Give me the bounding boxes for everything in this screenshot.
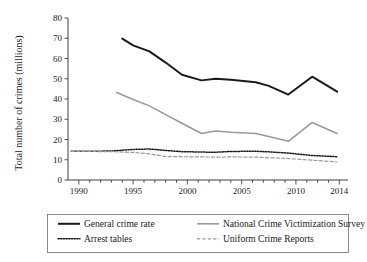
legend-label-3: Arrest tables <box>84 234 133 244</box>
legend-label-1: General crime rate <box>84 219 155 229</box>
y-tick-label: 40 <box>53 94 63 104</box>
series-line-3 <box>71 149 337 157</box>
y-tick-label: 20 <box>53 135 63 145</box>
y-axis-ticks: 01020304050607080 <box>53 13 68 185</box>
line-chart: Total number of crimes (millions) 010203… <box>0 0 367 262</box>
chart-figure: Total number of crimes (millions) 010203… <box>0 0 367 262</box>
x-tick-label: 2010 <box>287 186 306 196</box>
y-tick-label: 50 <box>53 74 63 84</box>
y-axis-label: Total number of crimes (millions) <box>13 35 25 170</box>
x-tick-label: 2005 <box>233 186 252 196</box>
legend-label-4: Uniform Crime Reports <box>223 234 314 244</box>
y-tick-label: 80 <box>53 13 63 23</box>
x-tick-label: 1990 <box>70 186 89 196</box>
y-tick-label: 70 <box>53 33 63 43</box>
data-series-group <box>71 39 337 162</box>
y-tick-label: 10 <box>53 155 63 165</box>
y-tick-label: 60 <box>53 54 63 64</box>
legend-label-2: National Crime Victimization Survey <box>223 219 365 229</box>
x-tick-label: 2000 <box>178 186 197 196</box>
y-tick-label: 0 <box>58 175 63 185</box>
x-tick-label: 2014 <box>330 186 349 196</box>
y-tick-label: 30 <box>53 114 63 124</box>
y-axis-label-text: Total number of crimes (millions) <box>13 35 25 170</box>
series-line-2 <box>117 93 337 142</box>
series-line-4 <box>71 151 337 162</box>
x-axis-ticks: 199019952000200520102014 <box>70 180 349 196</box>
series-line-1 <box>122 39 337 95</box>
legend: General crime rateNational Crime Victimi… <box>58 219 365 244</box>
x-tick-label: 1995 <box>124 186 143 196</box>
